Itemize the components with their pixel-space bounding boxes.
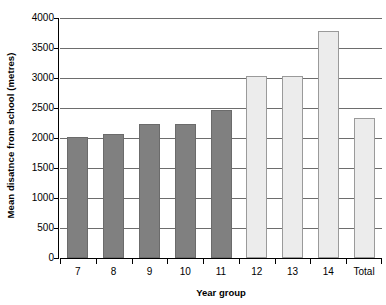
x-tick-label-7: 7: [60, 266, 96, 278]
bar-8: [103, 134, 124, 258]
y-tick-mark-2000: [54, 138, 59, 139]
y-tick-mark-500: [54, 228, 59, 229]
y-axis-tick-labels: 05001000150020002500300035004000: [18, 18, 54, 258]
y-tick-label-1500: 1500: [18, 163, 54, 173]
x-tick-mark-7: [310, 259, 311, 264]
bar-7: [67, 137, 88, 258]
y-tick-label-2000: 2000: [18, 133, 54, 143]
y-tick-mark-4000: [54, 18, 59, 19]
x-tick-label-9: 9: [132, 266, 168, 278]
x-axis-ticks: [60, 259, 382, 265]
x-tick-label-13: 13: [275, 266, 311, 278]
bar-11: [211, 110, 232, 258]
y-tick-mark-3500: [54, 48, 59, 49]
x-tick-mark-3: [167, 259, 168, 264]
x-tick-label-10: 10: [167, 266, 203, 278]
y-axis-title-text: Mean disatnce from school (metres): [5, 52, 16, 218]
x-axis-tick-labels: 7891011121314Total: [60, 266, 382, 280]
x-tick-mark-9: [381, 259, 382, 264]
bar-14: [318, 31, 339, 258]
y-tick-label-1000: 1000: [18, 193, 54, 203]
y-tick-mark-0: [54, 258, 59, 259]
y-tick-mark-2500: [54, 108, 59, 109]
x-tick-mark-4: [203, 259, 204, 264]
bar-Total: [354, 118, 375, 258]
x-tick-mark-2: [132, 259, 133, 264]
x-tick-mark-6: [275, 259, 276, 264]
x-tick-mark-8: [346, 259, 347, 264]
x-axis-title: Year group: [60, 287, 382, 298]
y-tick-label-3500: 3500: [18, 43, 54, 53]
bar-12: [246, 76, 267, 258]
bar-13: [282, 76, 303, 258]
x-tick-mark-0: [60, 259, 61, 264]
bars-group: [60, 18, 382, 258]
x-tick-label-Total: Total: [346, 266, 382, 278]
y-tick-label-3000: 3000: [18, 73, 54, 83]
plot-area: [60, 18, 382, 258]
y-tick-mark-3000: [54, 78, 59, 79]
y-tick-label-0: 0: [18, 253, 54, 263]
bar-10: [175, 124, 196, 258]
x-tick-label-8: 8: [96, 266, 132, 278]
bar-9: [139, 124, 160, 258]
bar-chart: Mean disatnce from school (metres) 05001…: [0, 0, 386, 305]
x-tick-label-14: 14: [310, 266, 346, 278]
x-tick-mark-1: [96, 259, 97, 264]
y-tick-label-2500: 2500: [18, 103, 54, 113]
y-axis-title: Mean disatnce from school (metres): [0, 0, 20, 270]
y-tick-mark-1500: [54, 168, 59, 169]
x-tick-label-12: 12: [239, 266, 275, 278]
x-tick-label-11: 11: [203, 266, 239, 278]
y-tick-mark-1000: [54, 198, 59, 199]
y-tick-label-500: 500: [18, 223, 54, 233]
x-tick-mark-5: [239, 259, 240, 264]
y-tick-label-4000: 4000: [18, 13, 54, 23]
